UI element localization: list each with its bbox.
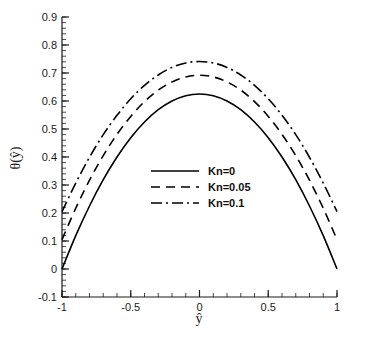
y-tick-label: 0.4 bbox=[42, 151, 57, 163]
chart-background bbox=[0, 0, 367, 340]
y-tick-label: 0.5 bbox=[42, 123, 57, 135]
y-tick-label: -0.1 bbox=[38, 291, 57, 303]
y-tick-label: 0.2 bbox=[42, 207, 57, 219]
y-tick-label: 0.7 bbox=[42, 67, 57, 79]
y-tick-label: 0.6 bbox=[42, 95, 57, 107]
x-tick-label: 0.5 bbox=[261, 301, 276, 313]
chart-figure: -0.100.10.20.30.40.50.60.70.80.9 -1-0.50… bbox=[0, 0, 367, 340]
x-axis-title: ŷ bbox=[196, 311, 203, 326]
y-tick-label: 0.9 bbox=[42, 11, 57, 23]
x-tick-label: 1 bbox=[334, 301, 340, 313]
legend-label-1: Kn=0.05 bbox=[208, 181, 251, 193]
y-tick-label: 0 bbox=[51, 263, 57, 275]
y-axis-title: θ(ŷ) bbox=[8, 146, 24, 169]
legend-label-0: Kn=0 bbox=[208, 165, 235, 177]
x-tick-label: -1 bbox=[57, 301, 67, 313]
legend-label-2: Kn=0.1 bbox=[208, 197, 244, 209]
line-chart: -0.100.10.20.30.40.50.60.70.80.9 -1-0.50… bbox=[0, 0, 367, 340]
x-tick-label: -0.5 bbox=[121, 301, 140, 313]
y-tick-label: 0.3 bbox=[42, 179, 57, 191]
y-tick-label: 0.8 bbox=[42, 39, 57, 51]
y-tick-label: 0.1 bbox=[42, 235, 57, 247]
